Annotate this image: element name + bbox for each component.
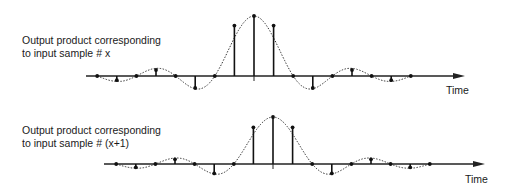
sample-point — [369, 157, 373, 161]
sample-point — [95, 74, 99, 78]
sample-point — [232, 162, 236, 166]
sample-point — [331, 74, 335, 78]
sample-point — [409, 74, 413, 78]
sample-point — [350, 162, 354, 166]
sample-point — [310, 162, 314, 166]
sample-point — [134, 165, 138, 169]
sample-point — [252, 125, 256, 129]
sample-point — [350, 68, 354, 72]
sample-point — [114, 162, 118, 166]
axis-arrow-icon — [473, 161, 485, 167]
sample-point — [135, 74, 139, 78]
sample-point — [408, 165, 412, 169]
sample-point — [154, 68, 158, 72]
sample-point — [291, 125, 295, 129]
sample-point — [174, 74, 178, 78]
sample-point — [271, 115, 275, 119]
stem-plots — [0, 0, 506, 194]
sample-point — [193, 162, 197, 166]
sample-point — [212, 172, 216, 176]
sample-point — [272, 24, 276, 28]
axis-arrow-icon — [453, 73, 465, 79]
sample-point — [252, 14, 256, 18]
sample-point — [330, 172, 334, 176]
sample-point — [389, 78, 393, 82]
sample-point — [173, 157, 177, 161]
sample-point — [233, 24, 237, 28]
sample-point — [193, 86, 197, 90]
sample-point — [311, 86, 315, 90]
sample-point — [428, 162, 432, 166]
sample-point — [154, 162, 158, 166]
sample-point — [370, 74, 374, 78]
sample-point — [291, 74, 295, 78]
sample-point — [115, 78, 119, 82]
sample-point — [389, 162, 393, 166]
sample-point — [213, 74, 217, 78]
